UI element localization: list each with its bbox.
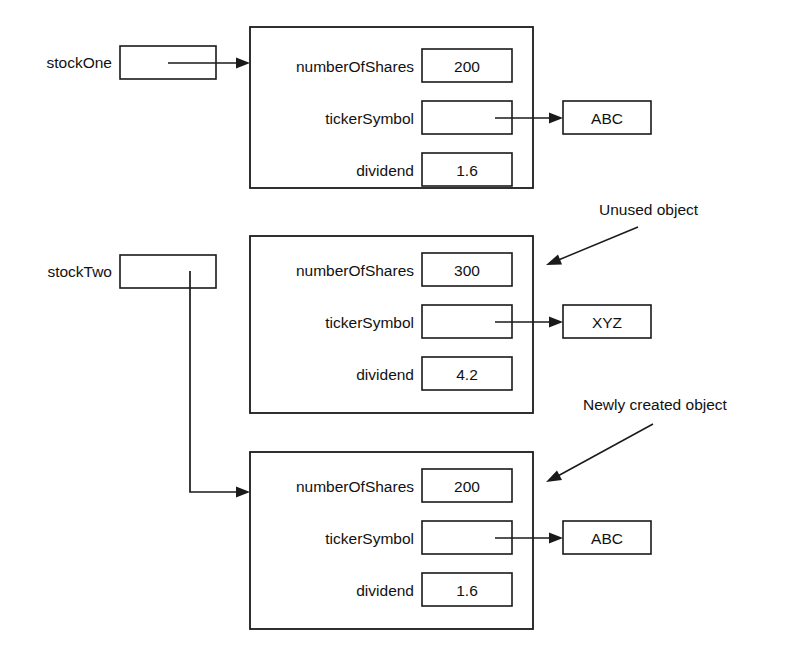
string-value-xyz: XYZ [592,314,622,331]
object-box-one: numberOfShares 200 tickerSymbol dividend… [250,27,533,188]
object-two-field-label-dividend: dividend [356,366,414,383]
object-three-field-label-dividend: dividend [356,582,414,599]
diagram-canvas: numberOfShares 200 tickerSymbol dividend… [0,0,788,656]
annotation-leader-new [556,424,653,477]
annotation-arrowhead-new [546,471,562,483]
object-one-value-dividend: 1.6 [456,162,478,179]
object-two-field-label-tickerSymbol: tickerSymbol [325,314,414,331]
variable-label-stockOne: stockOne [47,54,112,71]
annotation-newly-created-object: Newly created object [546,396,728,482]
variable-label-stockTwo: stockTwo [47,263,112,280]
object-one-field-label-numberOfShares: numberOfShares [296,58,414,75]
variable-box-stockTwo [120,255,216,288]
object-two-field-label-numberOfShares: numberOfShares [296,262,414,279]
object-three-value-dividend: 1.6 [456,582,478,599]
object-one-field-label-dividend: dividend [356,162,414,179]
object-one-field-label-tickerSymbol: tickerSymbol [325,110,414,127]
annotation-leader-unused [556,227,638,261]
object-two-value-dividend: 4.2 [456,366,478,383]
object-three-field-label-tickerSymbol: tickerSymbol [325,530,414,547]
pointer-line-stockTwo [190,271,240,492]
annotation-label-new: Newly created object [583,396,728,413]
string-value-abc-top: ABC [591,110,623,127]
reference-arrowhead-object-one-tickerSymbol [549,113,563,124]
annotation-arrowhead-unused [546,255,562,266]
variable-stockOne: stockOne [47,46,250,79]
object-two-value-numberOfShares: 300 [454,262,480,279]
pointer-arrowhead-stockOne [236,58,250,69]
object-one-value-numberOfShares: 200 [454,58,480,75]
object-three-field-label-numberOfShares: numberOfShares [296,478,414,495]
object-three-value-numberOfShares: 200 [454,478,480,495]
reference-arrowhead-object-three-tickerSymbol [549,533,563,544]
annotation-unused-object: Unused object [546,201,699,265]
object-box-two: numberOfShares 300 tickerSymbol dividend… [250,236,533,413]
variable-stockTwo: stockTwo [47,255,250,498]
pointer-arrowhead-stockTwo [236,487,250,498]
string-value-abc-bottom: ABC [591,530,623,547]
annotation-label-unused: Unused object [599,201,699,218]
object-box-three: numberOfShares 200 tickerSymbol dividend… [250,452,533,629]
object-reference-diagram: numberOfShares 200 tickerSymbol dividend… [0,0,788,656]
reference-arrowhead-object-two-tickerSymbol [549,317,563,328]
